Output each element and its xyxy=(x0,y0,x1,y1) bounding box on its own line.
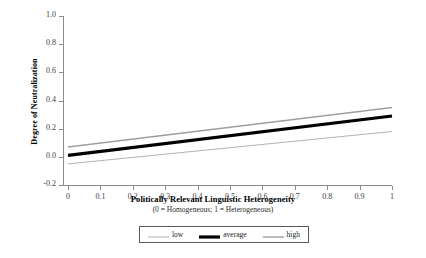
x-tick-mark xyxy=(295,186,296,190)
x-tick-mark xyxy=(198,186,199,190)
y-tick: 1.0 xyxy=(59,16,63,17)
y-tick-mark xyxy=(59,185,63,186)
y-tick-label: 0.4 xyxy=(46,95,56,104)
y-tick: -0.2 xyxy=(59,185,63,186)
x-tick-mark xyxy=(262,186,263,190)
x-tick-mark xyxy=(230,186,231,190)
x-axis-spine xyxy=(63,185,392,186)
y-tick-label: 0.6 xyxy=(46,66,56,75)
y-tick-mark xyxy=(59,129,63,130)
plot-area: -0.20.00.20.40.60.81.0 00.10.20.30.40.50… xyxy=(68,16,392,185)
legend-label-average: average xyxy=(223,230,246,239)
legend-entry-high[interactable]: high xyxy=(263,226,300,244)
y-axis-title: Degree of Neutralization xyxy=(30,27,39,177)
y-axis-spine xyxy=(63,16,64,185)
legend-swatch-average xyxy=(199,226,220,244)
legend-label-high: high xyxy=(287,230,300,239)
x-tick-mark xyxy=(165,186,166,190)
x-tick-mark xyxy=(100,186,101,190)
y-tick: 0.4 xyxy=(59,101,63,102)
x-tick-mark xyxy=(360,186,361,190)
chart-legend: lowaveragehigh xyxy=(139,226,309,243)
y-tick-mark xyxy=(59,101,63,102)
y-tick: 0.6 xyxy=(59,72,63,73)
legend-entry-low[interactable]: low xyxy=(148,226,183,244)
series-line-high xyxy=(68,108,392,147)
y-tick-mark xyxy=(59,72,63,73)
legend-label-low: low xyxy=(172,230,183,239)
y-tick-label: -0.2 xyxy=(43,179,56,188)
y-tick-mark xyxy=(59,44,63,45)
y-tick-label: 0.8 xyxy=(46,38,56,47)
y-tick: 0.0 xyxy=(59,157,63,158)
y-tick: 0.2 xyxy=(59,129,63,130)
x-axis-subtitle: (0 = Homogeneous; 1 = Heterogeneous) xyxy=(0,205,426,214)
y-tick: 0.8 xyxy=(59,44,63,45)
series-lines xyxy=(68,16,392,185)
y-tick-mark xyxy=(59,157,63,158)
series-line-average xyxy=(68,116,392,155)
x-tick-mark xyxy=(68,186,69,190)
legend-entry-average[interactable]: average xyxy=(199,226,246,244)
y-tick-label: 0.0 xyxy=(46,151,56,160)
y-tick-mark xyxy=(59,16,63,17)
x-tick-mark xyxy=(392,186,393,190)
legend-swatch-low xyxy=(148,226,169,244)
legend-swatch-high xyxy=(263,226,284,244)
chart-figure: Degree of Neutralization -0.20.00.20.40.… xyxy=(0,0,426,258)
y-tick-label: 0.2 xyxy=(46,123,56,132)
x-tick-mark xyxy=(327,186,328,190)
x-tick-mark xyxy=(133,186,134,190)
x-axis-title: Politically Relevant Linguistic Heteroge… xyxy=(0,194,426,204)
y-tick-label: 1.0 xyxy=(46,10,56,19)
